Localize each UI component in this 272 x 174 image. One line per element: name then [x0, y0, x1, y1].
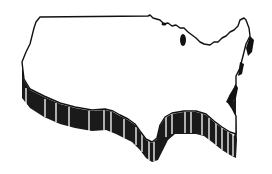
map-outline [22, 15, 250, 142]
us-map-illustration [0, 0, 272, 174]
lake-superior-notch [162, 23, 167, 26]
lake-michigan [180, 34, 186, 46]
